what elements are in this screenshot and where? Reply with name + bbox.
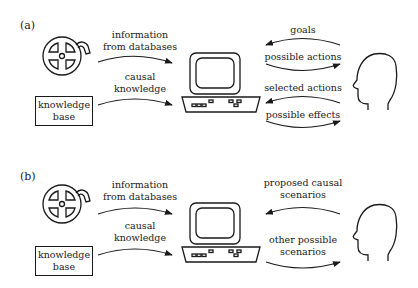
label-possible-actions: possible actions: [263, 51, 343, 63]
label-line: knowledge: [100, 83, 180, 95]
arrow-other-possible-scenarios: [266, 262, 340, 268]
arrow-proposed-causal-scenarios: [266, 208, 340, 215]
label-information: information from databases: [100, 179, 180, 203]
arrow-causal-knowledge: [98, 99, 172, 105]
knowledge-base-box: knowledge base: [35, 246, 93, 276]
kb-line: base: [38, 261, 90, 273]
computer-icon: [182, 53, 260, 112]
label-goals: goals: [263, 24, 343, 36]
label-line: information: [100, 29, 180, 41]
label-line: information: [100, 179, 180, 191]
knowledge-base-box: knowledge base: [35, 96, 93, 126]
label-possible-effects: possible effects: [263, 109, 343, 121]
computer-icon: [182, 203, 260, 262]
label-line: from databases: [100, 191, 180, 203]
human-head-icon: [353, 54, 397, 111]
kb-line: base: [38, 111, 90, 123]
human-head-icon: [353, 205, 397, 262]
label-line: causal: [100, 220, 180, 232]
label-information: information from databases: [100, 29, 180, 53]
label-line: proposed causal: [263, 177, 343, 189]
film-reel-icon: [43, 185, 90, 223]
kb-line: knowledge: [38, 249, 90, 261]
arrow-selected-actions: [266, 97, 340, 104]
kb-line: knowledge: [38, 99, 90, 111]
film-reel-icon: [43, 37, 90, 75]
arrow-information-from-databases: [98, 56, 172, 63]
arrow-information-from-databases: [98, 208, 172, 214]
arrow-goals: [266, 39, 340, 46]
label-line: other possible: [263, 234, 343, 246]
label-line: scenarios: [263, 189, 343, 201]
label-proposed-causal-scenarios: proposed causal scenarios: [263, 177, 343, 201]
arrow-possible-effects: [266, 121, 340, 128]
label-causal-knowledge: causal knowledge: [100, 220, 180, 244]
arrow-causal-knowledge: [98, 249, 172, 255]
label-line: causal: [100, 71, 180, 83]
panel-b: (b) information from databases causal kn…: [0, 144, 418, 288]
label-line: from databases: [100, 41, 180, 53]
panel-label: (b): [20, 170, 36, 183]
panel-a: (a) information from databases causal kn…: [0, 0, 418, 144]
label-other-possible-scenarios: other possible scenarios: [263, 234, 343, 258]
label-selected-actions: selected actions: [263, 82, 343, 94]
label-line: scenarios: [263, 246, 343, 258]
panel-label: (a): [20, 19, 35, 32]
label-line: knowledge: [100, 232, 180, 244]
label-causal-knowledge: causal knowledge: [100, 71, 180, 95]
arrow-possible-actions: [266, 64, 340, 71]
